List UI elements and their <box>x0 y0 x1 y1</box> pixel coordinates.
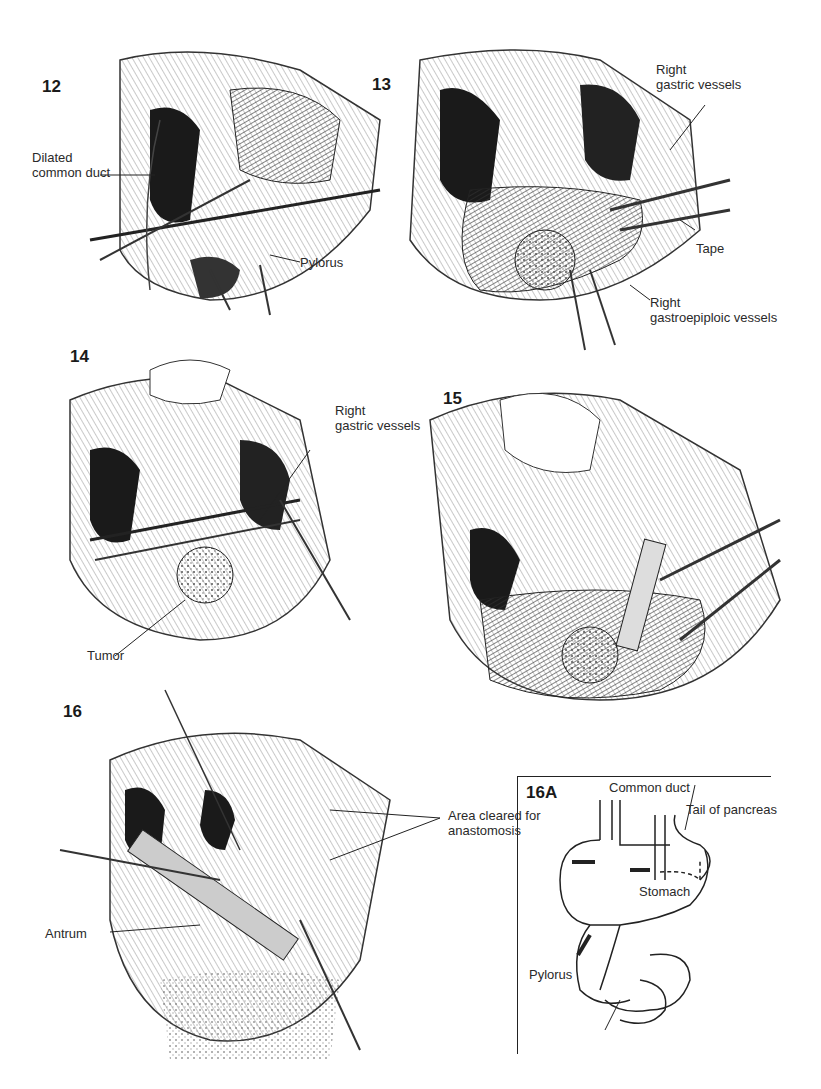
figure-15-drawing <box>430 393 780 700</box>
callout-antrum: Antrum <box>45 926 87 941</box>
callout-right-gastroepiploic-vessels: Right gastroepiploic vessels <box>650 295 777 325</box>
figure-number: 13 <box>372 75 391 95</box>
callout-right-gastric-vessels: Right gastric vessels <box>656 62 741 92</box>
callout-area-cleared-for-anastomosis: Area cleared for anastomosis <box>448 808 541 838</box>
figure-16a-frame <box>517 776 771 1054</box>
callout-pylorus: Pylorus <box>300 255 343 270</box>
callout-tape: Tape <box>696 241 724 256</box>
figure-number: 16A <box>526 783 557 803</box>
figure-number: 15 <box>443 389 462 409</box>
callout-pylorus: Pylorus <box>529 967 572 982</box>
callout-common-duct: Common duct <box>609 780 690 795</box>
callout-right-gastric-vessels: Right gastric vessels <box>335 403 420 433</box>
figure-16-drawing <box>60 690 440 1060</box>
callout-tail-of-pancreas: Tail of pancreas <box>686 802 777 817</box>
figure-number: 14 <box>70 347 89 367</box>
callout-dilated-common-duct: Dilated common duct <box>32 150 110 180</box>
figure-number: 16 <box>63 702 82 722</box>
figure-number: 12 <box>42 77 61 97</box>
figure-14-drawing <box>70 360 350 656</box>
figure-12-drawing <box>90 52 380 315</box>
callout-stomach: Stomach <box>639 884 690 899</box>
callout-tumor: Tumor <box>87 648 124 663</box>
